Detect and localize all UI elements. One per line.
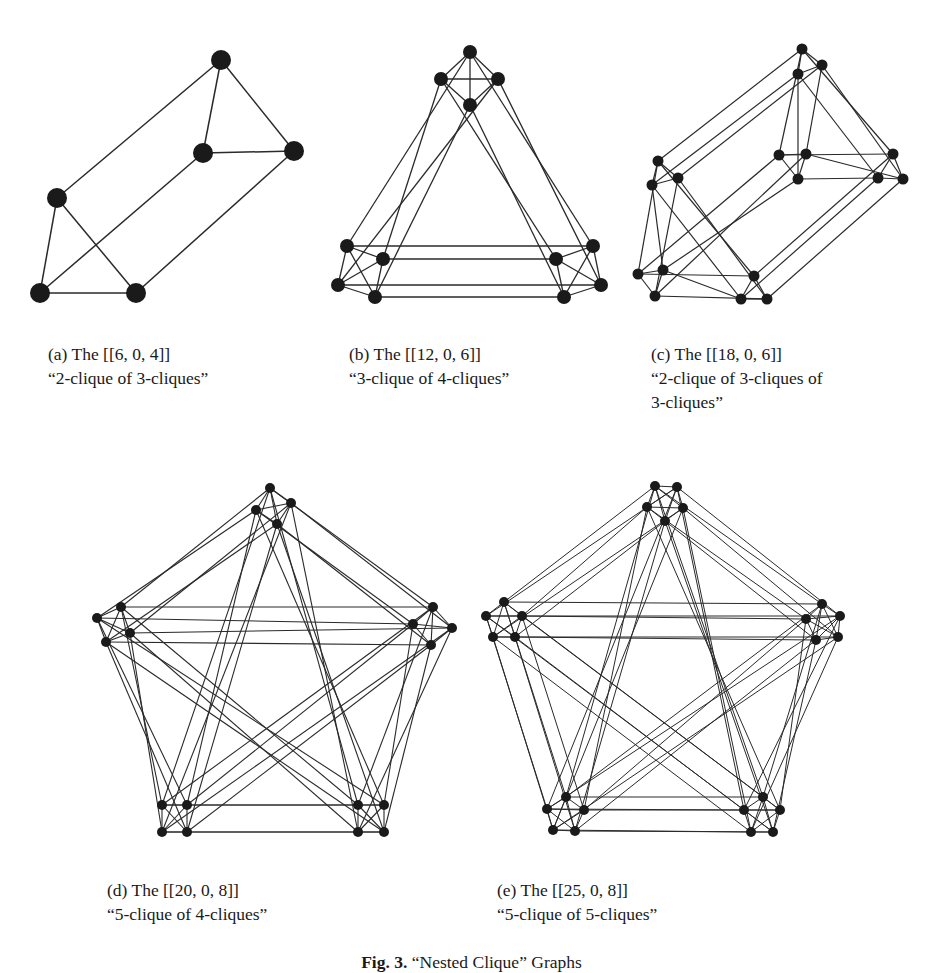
graph-edge <box>121 607 358 805</box>
graph-node <box>101 637 111 647</box>
graph-edge <box>270 488 358 805</box>
graph-edge <box>383 79 441 259</box>
graph-node <box>125 628 135 638</box>
graph-node <box>182 800 192 810</box>
graph-c <box>633 44 909 305</box>
graph-edge <box>522 616 584 810</box>
graph-edge <box>375 105 470 297</box>
graph-d <box>92 483 457 837</box>
graph-edge <box>162 503 291 832</box>
graph-node <box>811 635 821 645</box>
graph-node <box>379 827 389 837</box>
graph-node <box>561 792 571 802</box>
graph-node <box>642 502 652 512</box>
graph-node <box>579 805 589 815</box>
graph-node <box>774 150 785 161</box>
graph-edge <box>638 274 754 276</box>
graph-edge <box>358 607 433 805</box>
graph-node <box>157 800 167 810</box>
graph-node <box>428 602 438 612</box>
caption-c-label: (c) The [[18, 0, 6]] <box>651 342 823 366</box>
graph-node <box>463 45 477 59</box>
graph-node <box>746 827 756 837</box>
graph-edge <box>162 628 452 832</box>
graph-edge <box>678 65 822 178</box>
graph-node <box>888 149 899 160</box>
graph-node <box>488 632 498 642</box>
graph-edge <box>57 60 221 198</box>
graph-edge <box>515 637 773 832</box>
graph-node <box>658 265 669 276</box>
graph-edge <box>522 507 647 616</box>
graph-edge <box>822 65 903 179</box>
graph-edge <box>677 487 744 810</box>
graph-edge <box>547 487 677 809</box>
graph-edge <box>130 503 291 633</box>
graph-node <box>353 827 363 837</box>
graph-node <box>463 98 477 112</box>
graph-node <box>650 481 660 491</box>
graph-node <box>647 180 658 191</box>
graph-node <box>30 283 50 303</box>
graph-edge <box>553 508 683 830</box>
graph-edge <box>754 154 893 276</box>
caption-c-description-cont: 3-cliques” <box>651 390 823 414</box>
graph-node <box>368 290 382 304</box>
graph-edge <box>384 624 413 805</box>
graph-node <box>251 505 261 515</box>
graph-node <box>775 805 785 815</box>
graph-node <box>284 141 304 161</box>
graph-node <box>835 611 845 621</box>
caption-b-description: “3-clique of 4-cliques” <box>349 366 509 390</box>
graph-node <box>797 44 808 55</box>
graph-node <box>898 174 909 185</box>
graph-node <box>833 632 843 642</box>
graph-edge <box>806 65 822 154</box>
figure-caption-title: “Nested Clique” Graphs <box>412 952 582 972</box>
graph-edge <box>498 79 601 285</box>
graph-edge <box>57 198 136 293</box>
graph-edge <box>647 507 683 508</box>
graph-edge <box>515 521 665 637</box>
graph-edge <box>575 831 773 832</box>
graph-node <box>193 143 213 163</box>
graph-edge <box>504 602 822 604</box>
graph-edge <box>470 52 593 246</box>
graph-node <box>517 611 527 621</box>
graph-node <box>286 498 296 508</box>
caption-a-label: (a) The [[6, 0, 4]] <box>48 342 208 366</box>
graph-b <box>331 45 608 304</box>
graph-node <box>499 597 509 607</box>
graph-node <box>272 519 282 529</box>
graph-edge <box>97 510 256 618</box>
graph-edge <box>338 259 383 285</box>
graph-edge <box>277 524 431 645</box>
caption-c: (c) The [[18, 0, 6]] “2-clique of 3-cliq… <box>651 342 823 414</box>
graph-node <box>510 632 520 642</box>
graph-node <box>586 239 600 253</box>
graph-a <box>30 50 304 303</box>
graph-edge <box>40 198 57 293</box>
graph-node <box>660 516 670 526</box>
graph-node <box>557 290 571 304</box>
graph-node <box>426 640 436 650</box>
figure-caption: Fig. 3. “Nested Clique” Graphs <box>0 952 943 973</box>
graph-node <box>447 623 457 633</box>
graph-node <box>801 149 812 160</box>
graph-node <box>793 69 804 80</box>
graph-node <box>353 800 363 810</box>
graph-node <box>736 294 747 305</box>
graph-edge <box>358 628 452 832</box>
graph-edge <box>652 74 798 185</box>
graph-node <box>408 619 418 629</box>
graph-node <box>126 283 146 303</box>
graph-edge <box>441 79 556 259</box>
graph-node <box>672 482 682 492</box>
graph-edge <box>658 49 802 161</box>
caption-b-label: (b) The [[12, 0, 6]] <box>349 342 509 366</box>
graph-node <box>376 252 390 266</box>
graph-edge <box>493 637 553 830</box>
graph-edge <box>203 151 294 153</box>
graph-node <box>570 826 580 836</box>
